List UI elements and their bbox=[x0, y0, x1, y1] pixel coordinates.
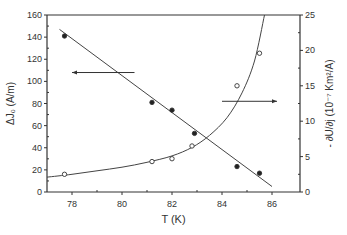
y-tick-label: 160 bbox=[27, 10, 42, 20]
plot-area bbox=[47, 15, 277, 187]
y-axis-title: ΔJ₀ (A/m) bbox=[5, 82, 16, 125]
data-point bbox=[257, 171, 261, 175]
data-point bbox=[235, 84, 239, 88]
data-point bbox=[192, 131, 196, 135]
y-tick-label: 40 bbox=[32, 143, 42, 153]
data-point bbox=[150, 159, 154, 163]
x-tick-label: 86 bbox=[267, 199, 277, 209]
arrow-head-left-icon bbox=[72, 71, 77, 75]
x-tick-label: 78 bbox=[67, 199, 77, 209]
fit-line-0 bbox=[60, 29, 273, 186]
y-tick-label: 120 bbox=[27, 54, 42, 64]
data-point bbox=[150, 100, 154, 104]
data-point bbox=[62, 34, 66, 38]
arrow-head-right-icon bbox=[272, 99, 277, 103]
y2-tick-label: 25 bbox=[305, 10, 315, 20]
y2-tick-label: 10 bbox=[305, 116, 315, 126]
data-point bbox=[62, 172, 66, 176]
axes bbox=[44, 15, 303, 195]
axis-labels: 0204060801001201401600510152025788082848… bbox=[5, 10, 335, 225]
y-tick-label: 60 bbox=[32, 121, 42, 131]
data-point bbox=[257, 51, 261, 55]
x-axis-title: T (K) bbox=[161, 213, 185, 225]
y-tick-label: 20 bbox=[32, 165, 42, 175]
x-tick-label: 84 bbox=[217, 199, 227, 209]
fit-line-1 bbox=[47, 15, 265, 177]
y-tick-label: 0 bbox=[37, 187, 42, 197]
y-tick-label: 100 bbox=[27, 76, 42, 86]
y2-tick-label: 5 bbox=[305, 152, 310, 162]
y2-tick-label: 0 bbox=[305, 187, 310, 197]
data-point bbox=[170, 157, 174, 161]
y2-axis-title: - ∂U/∂j (10⁻⁷ Km²/A) bbox=[324, 60, 335, 148]
y2-tick-label: 20 bbox=[305, 45, 315, 55]
chart: 0204060801001201401600510152025788082848… bbox=[0, 0, 347, 235]
y-tick-label: 140 bbox=[27, 32, 42, 42]
y2-tick-label: 15 bbox=[305, 81, 315, 91]
x-tick-label: 82 bbox=[167, 199, 177, 209]
y-tick-label: 80 bbox=[32, 99, 42, 109]
data-point bbox=[170, 108, 174, 112]
x-tick-label: 80 bbox=[117, 199, 127, 209]
data-point bbox=[235, 164, 239, 168]
data-point bbox=[190, 144, 194, 148]
